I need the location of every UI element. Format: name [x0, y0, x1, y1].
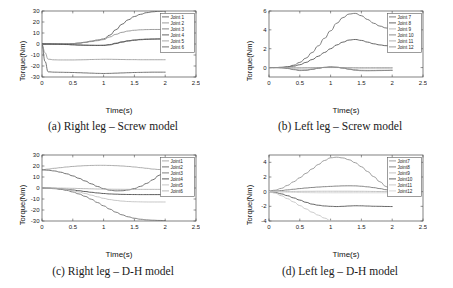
panel-a: Torque(Nm) 00.511.522.5-30-20-100102030J…: [0, 0, 226, 144]
svg-text:2: 2: [263, 46, 267, 52]
svg-text:Joint12: Joint12: [398, 189, 413, 194]
svg-text:0.5: 0.5: [69, 80, 78, 86]
svg-text:20: 20: [33, 163, 40, 169]
panel-d-canvas: 00.511.522.5-4-2024Joint7Joint8Joint9Joi…: [247, 150, 427, 256]
svg-text:-30: -30: [31, 74, 40, 80]
svg-text:Joint8: Joint8: [398, 165, 411, 170]
svg-text:1: 1: [102, 80, 106, 86]
svg-text:Joint 7: Joint 7: [398, 15, 412, 20]
svg-text:10: 10: [33, 174, 40, 180]
svg-text:-10: -10: [31, 52, 40, 58]
svg-text:30: 30: [33, 152, 40, 158]
panel-c-caption: (c) Right leg – D-H model: [0, 265, 226, 277]
svg-text:1.5: 1.5: [357, 224, 366, 230]
panel-a-canvas: 00.511.522.5-30-20-100102030Joint 1Joint…: [20, 6, 200, 112]
svg-text:Joint 9: Joint 9: [398, 27, 412, 32]
svg-text:Joint4: Joint4: [171, 177, 184, 182]
svg-text:Joint 3: Joint 3: [171, 27, 185, 32]
panel-b-canvas: 00.511.522.50246Joint 7Joint 8Joint 9Joi…: [247, 6, 427, 112]
panel-a-caption: (a) Right leg – Screw model: [0, 120, 226, 132]
svg-text:2: 2: [263, 174, 267, 180]
panel-d-caption: (d) Left leg – D-H model: [227, 265, 453, 277]
svg-text:1.5: 1.5: [130, 80, 139, 86]
svg-text:2.5: 2.5: [419, 80, 427, 86]
svg-text:0: 0: [267, 224, 271, 230]
panel-a-chart: 00.511.522.5-30-20-100102030Joint 1Joint…: [20, 6, 200, 108]
svg-text:Joint 6: Joint 6: [171, 45, 185, 50]
svg-text:2.5: 2.5: [192, 224, 200, 230]
svg-text:Joint 11: Joint 11: [398, 39, 414, 44]
svg-text:Joint7: Joint7: [398, 159, 411, 164]
svg-text:2: 2: [391, 224, 395, 230]
svg-text:1: 1: [329, 80, 333, 86]
svg-text:0: 0: [40, 80, 44, 86]
svg-text:10: 10: [33, 30, 40, 36]
svg-text:2: 2: [391, 80, 395, 86]
panel-d-plot-area: Torque(Nm) 00.511.522.5-4-2024Joint7Join…: [227, 146, 453, 264]
svg-text:Joint 8: Joint 8: [398, 21, 412, 26]
svg-text:Joint 12: Joint 12: [398, 45, 415, 50]
svg-text:1.5: 1.5: [357, 80, 366, 86]
panel-c-canvas: 00.511.522.5-30-20-100102030Joint1Joint2…: [20, 150, 200, 256]
panel-b-plot-area: Torque(Nm) 00.511.522.50246Joint 7Joint …: [227, 2, 453, 120]
svg-text:30: 30: [33, 8, 40, 14]
svg-text:-20: -20: [31, 207, 40, 213]
svg-text:Joint 2: Joint 2: [171, 21, 185, 26]
panel-c-chart: 00.511.522.5-30-20-100102030Joint1Joint2…: [20, 150, 200, 252]
svg-text:0.5: 0.5: [69, 224, 78, 230]
svg-text:1.5: 1.5: [130, 224, 139, 230]
panel-a-plot-area: Torque(Nm) 00.511.522.5-30-20-100102030J…: [0, 2, 226, 120]
svg-text:2: 2: [164, 80, 168, 86]
svg-text:0: 0: [263, 65, 267, 71]
svg-text:0: 0: [267, 80, 271, 86]
svg-text:-30: -30: [31, 218, 40, 224]
svg-text:0: 0: [263, 189, 267, 195]
svg-text:2.5: 2.5: [419, 224, 427, 230]
svg-text:Joint 1: Joint 1: [171, 15, 185, 20]
svg-text:0: 0: [36, 185, 40, 191]
svg-text:-20: -20: [31, 63, 40, 69]
svg-text:Joint 4: Joint 4: [171, 33, 185, 38]
svg-text:2: 2: [164, 224, 168, 230]
panel-c-x-axis-label: Time(s): [6, 250, 232, 259]
svg-text:Joint9: Joint9: [398, 171, 411, 176]
panel-b-x-axis-label: Time(s): [233, 106, 453, 115]
svg-text:Joint11: Joint11: [398, 183, 413, 188]
svg-text:0: 0: [40, 224, 44, 230]
svg-text:0.5: 0.5: [296, 224, 305, 230]
svg-text:1: 1: [102, 224, 106, 230]
panel-a-x-axis-label: Time(s): [6, 106, 232, 115]
panel-d-x-axis-label: Time(s): [233, 250, 453, 259]
panel-b-chart: 00.511.522.50246Joint 7Joint 8Joint 9Joi…: [247, 6, 427, 108]
svg-text:Joint6: Joint6: [171, 189, 184, 194]
svg-text:Joint1: Joint1: [171, 159, 184, 164]
svg-text:Joint10: Joint10: [398, 177, 413, 182]
svg-text:0.5: 0.5: [296, 80, 305, 86]
panel-d: Torque(Nm) 00.511.522.5-4-2024Joint7Join…: [227, 144, 453, 288]
svg-text:2.5: 2.5: [192, 80, 200, 86]
svg-text:Joint3: Joint3: [171, 171, 184, 176]
svg-text:Joint 5: Joint 5: [171, 39, 185, 44]
panel-d-chart: 00.511.522.5-4-2024Joint7Joint8Joint9Joi…: [247, 150, 427, 252]
svg-text:Joint2: Joint2: [171, 165, 184, 170]
svg-text:-4: -4: [261, 218, 267, 224]
svg-text:4: 4: [263, 27, 267, 33]
svg-text:0: 0: [36, 41, 40, 47]
figure-four-panel-torque-plots: Torque(Nm) 00.511.522.5-30-20-100102030J…: [0, 0, 453, 288]
svg-text:4: 4: [263, 159, 267, 165]
svg-text:Joint 10: Joint 10: [398, 33, 415, 38]
svg-text:Joint5: Joint5: [171, 183, 184, 188]
svg-text:20: 20: [33, 19, 40, 25]
panel-b: Torque(Nm) 00.511.522.50246Joint 7Joint …: [227, 0, 453, 144]
svg-text:1: 1: [329, 224, 333, 230]
svg-text:6: 6: [263, 8, 267, 14]
panel-c: Torque(Nm) 00.511.522.5-30-20-100102030J…: [0, 144, 226, 288]
panel-b-caption: (b) Left leg – Screw model: [227, 120, 453, 132]
svg-text:-2: -2: [261, 203, 267, 209]
panel-c-plot-area: Torque(Nm) 00.511.522.5-30-20-100102030J…: [0, 146, 226, 264]
svg-text:-10: -10: [31, 196, 40, 202]
